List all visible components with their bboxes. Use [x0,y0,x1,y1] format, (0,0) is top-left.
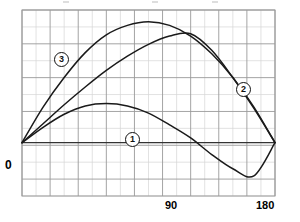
grid-minor-lines [22,10,275,196]
chart-svg [0,0,300,222]
x-axis-label-180: 180 [256,200,274,211]
series-marker-3: 3 [54,52,69,67]
series-marker-1: 1 [125,132,140,147]
x-axis-label-90: 90 [165,200,177,211]
plot-area: 0 90 180 1 2 3 [0,0,300,222]
chart-figure: 0 90 180 1 2 3 [0,0,300,222]
series-marker-2: 2 [236,82,251,97]
x-axis-label-0: 0 [5,159,12,171]
